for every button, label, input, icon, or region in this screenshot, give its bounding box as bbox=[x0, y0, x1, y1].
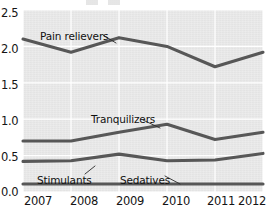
y-tick-label: 1.5 bbox=[1, 80, 18, 92]
series-lines bbox=[23, 38, 263, 184]
x-tick-label: 2007 bbox=[24, 196, 52, 208]
x-tick-label: 2008 bbox=[70, 196, 98, 208]
series-label-tranquilizers: Tranquilizers bbox=[91, 114, 155, 125]
x-tick-label: 2009 bbox=[116, 196, 144, 208]
series-label-pain-relievers: Pain relievers bbox=[40, 31, 108, 42]
x-axis-tick-labels: 2007 2008 2009 2010 2011 2012 bbox=[0, 196, 266, 218]
y-tick-label: 0.5 bbox=[1, 152, 18, 164]
x-tick-label: 2011 bbox=[207, 196, 235, 208]
y-tick-label: 2.0 bbox=[1, 44, 18, 56]
y-axis-tick-labels: 2.5 2.0 1.5 1.0 0.5 0.0 bbox=[0, 0, 23, 218]
y-tick-label: 1.0 bbox=[1, 116, 18, 128]
series-label-stimulants: Stimulants bbox=[37, 175, 92, 186]
x-tick-label: 2010 bbox=[162, 196, 190, 208]
y-tick-label: 2.5 bbox=[1, 8, 18, 20]
series-label-sedatives: Sedatives bbox=[120, 175, 170, 186]
line-chart: 2.5 2.0 1.5 1.0 0.5 0.0 2007 2008 2009 2… bbox=[0, 0, 266, 218]
x-tick-label: 2012 bbox=[238, 196, 266, 208]
